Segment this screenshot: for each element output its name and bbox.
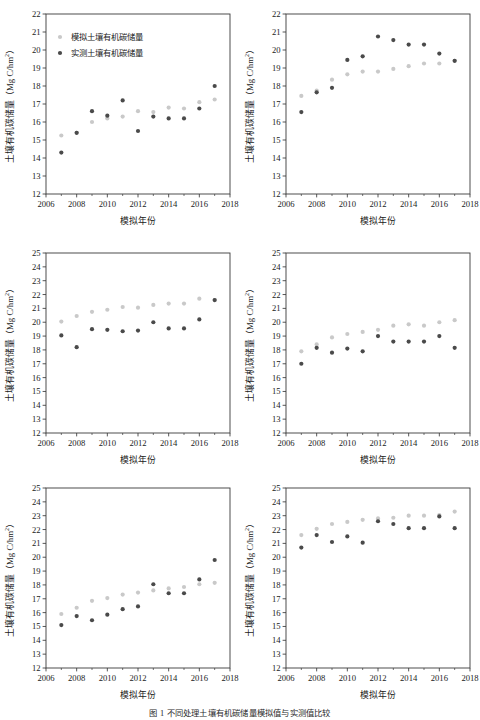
point-simulated	[437, 320, 441, 324]
point-measured	[453, 346, 457, 350]
point-simulated	[182, 106, 186, 110]
y-tick-label: 13	[272, 171, 281, 181]
chart-panel-b: 1213141516171819202122200620082010201220…	[240, 0, 480, 238]
y-tick-label: 13	[272, 649, 281, 659]
y-tick-label: 20	[32, 552, 41, 562]
point-measured	[391, 38, 395, 42]
point-simulated	[345, 520, 349, 524]
point-simulated	[391, 67, 395, 71]
point-simulated	[453, 318, 457, 322]
x-tick-label: 2008	[308, 438, 325, 448]
x-tick-label: 2014	[160, 438, 178, 448]
y-tick-label: 23	[272, 276, 281, 286]
point-measured	[75, 345, 79, 349]
x-axis-title: 模拟年份	[360, 454, 396, 465]
x-tick-label: 2012	[369, 199, 386, 209]
point-simulated	[105, 308, 109, 312]
point-measured	[75, 614, 79, 618]
y-tick-label: 18	[272, 580, 281, 590]
plot-frame	[286, 14, 470, 194]
y-tick-label: 14	[272, 400, 281, 410]
y-tick-label: 21	[32, 27, 41, 37]
y-tick-label: 23	[32, 276, 41, 286]
legend-marker-measured	[58, 51, 62, 55]
point-measured	[151, 320, 155, 324]
x-tick-label: 2012	[369, 438, 386, 448]
point-simulated	[361, 70, 365, 74]
point-measured	[437, 334, 441, 338]
point-simulated	[197, 297, 201, 301]
point-simulated	[376, 328, 380, 332]
legend-marker-simulated	[58, 35, 62, 39]
point-simulated	[345, 332, 349, 336]
y-tick-label: 15	[272, 135, 281, 145]
x-tick-label: 2010	[99, 438, 116, 448]
y-axis-title: 土壤有机碳储量（Mg C/hm2）	[244, 45, 255, 163]
y-tick-label: 21	[32, 303, 41, 313]
point-measured	[121, 98, 125, 102]
x-tick-label: 2016	[431, 438, 449, 448]
x-tick-label: 2014	[160, 673, 178, 683]
point-simulated	[182, 585, 186, 589]
y-tick-label: 12	[272, 189, 281, 199]
y-tick-label: 14	[272, 153, 281, 163]
plot-frame	[46, 488, 230, 668]
point-simulated	[167, 301, 171, 305]
point-measured	[453, 526, 457, 530]
y-axis-title: 土壤有机碳储量（Mg C/hm2）	[244, 519, 255, 637]
point-simulated	[151, 303, 155, 307]
y-tick-label: 14	[272, 635, 281, 645]
point-simulated	[59, 612, 63, 616]
point-measured	[330, 351, 334, 355]
chart-panel-c: 1213141516171819202122232425200620082010…	[0, 239, 240, 477]
point-simulated	[151, 588, 155, 592]
y-tick-label: 16	[272, 608, 281, 618]
y-tick-label: 18	[272, 345, 281, 355]
point-measured	[182, 116, 186, 120]
y-tick-label: 13	[32, 649, 41, 659]
x-tick-label: 2008	[308, 199, 325, 209]
y-tick-label: 24	[272, 262, 281, 272]
point-measured	[105, 328, 109, 332]
point-simulated	[361, 330, 365, 334]
point-simulated	[330, 522, 334, 526]
y-tick-label: 12	[32, 189, 41, 199]
y-tick-label: 16	[272, 373, 281, 383]
point-simulated	[121, 593, 125, 597]
point-simulated	[136, 109, 140, 113]
point-simulated	[90, 599, 94, 603]
y-tick-label: 15	[32, 621, 41, 631]
point-measured	[182, 326, 186, 330]
x-tick-label: 2014	[400, 199, 418, 209]
point-simulated	[407, 514, 411, 518]
point-simulated	[105, 596, 109, 600]
y-tick-label: 22	[272, 9, 281, 19]
x-tick-label: 2016	[431, 673, 449, 683]
x-tick-label: 2006	[277, 438, 295, 448]
point-simulated	[167, 106, 171, 110]
point-measured	[59, 151, 63, 155]
point-simulated	[330, 78, 334, 82]
y-tick-label: 19	[32, 566, 41, 576]
point-measured	[376, 519, 380, 523]
y-tick-label: 21	[272, 27, 281, 37]
point-simulated	[167, 586, 171, 590]
point-measured	[90, 327, 94, 331]
point-simulated	[407, 64, 411, 68]
x-tick-label: 2008	[308, 673, 325, 683]
point-measured	[330, 540, 334, 544]
point-simulated	[75, 314, 79, 318]
point-simulated	[213, 581, 217, 585]
point-measured	[407, 43, 411, 47]
point-measured	[345, 534, 349, 538]
svg-text:土壤有机碳储量（Mg C/hm2）: 土壤有机碳储量（Mg C/hm2）	[244, 45, 255, 163]
y-tick-label: 14	[32, 153, 41, 163]
y-axis-title: 土壤有机碳储量（Mg C/hm2）	[4, 284, 15, 402]
point-simulated	[422, 61, 426, 65]
x-tick-label: 2018	[221, 438, 238, 448]
y-tick-label: 14	[32, 635, 41, 645]
y-tick-label: 17	[272, 359, 281, 369]
point-simulated	[121, 305, 125, 309]
point-measured	[105, 613, 109, 617]
point-simulated	[330, 335, 334, 339]
